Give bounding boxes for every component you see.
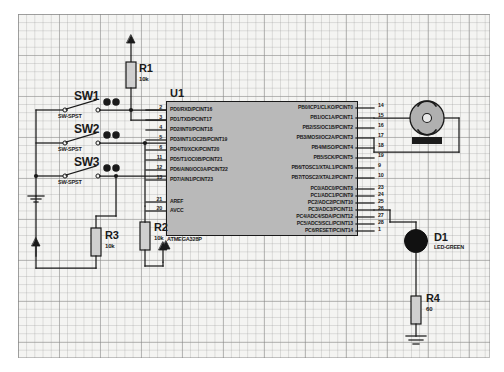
resistor-r4-value: 60 [426,306,432,312]
switch-sw1-value: SW-SPST [58,114,82,120]
resistor-r3-value: 10k [105,243,114,249]
ic-pb-num-17: 17 [378,133,384,138]
resistor-r2-value: 10k [154,235,163,241]
resistor-r1-body [126,62,136,88]
buzzer-symbol [410,101,444,135]
ic-pc-num-26: 26 [378,206,384,211]
junction-dot [34,174,38,178]
resistor-r3-reference: R3 [105,230,119,241]
switch-sw2-value: SW-SPST [58,147,82,153]
led-d1-symbol [405,230,428,253]
ic-pc-name-23: PC0/ADC0/PCINT8 [173,186,353,191]
ic-pin-num-13: 13 [146,175,162,180]
ic-pc-num-23: 23 [378,185,384,190]
switch-sw3-value: SW-SPST [58,180,82,186]
ic-pwr-num-20: 20 [146,206,162,211]
ic-pc-name-1: PC6/RESET/PCINT14 [173,228,353,233]
ic-pb-name-14: PB0/ICP1/CLKO/PCINT0 [173,105,353,110]
ic-pb-num-16: 16 [378,123,384,128]
led-d1-value: LED-GREEN [434,245,464,250]
resistor-r1-reference: R1 [139,63,153,74]
power-terminal-r1 [127,35,135,62]
ic-pin-num-12: 12 [146,165,162,170]
ic-pc-num-24: 24 [378,192,384,197]
ic-pc-name-26: PC3/ADC3/PCINT11 [173,207,353,212]
ic-pin-num-6: 6 [146,145,162,150]
ic-pin-num-5: 5 [146,135,162,140]
ic-pb-name-18: PB4/MISO/PCINT4 [173,145,353,150]
schematic-canvas: R1 10k R2 10k R3 10k R4 60 SW1 SW-SPST S… [0,0,504,372]
ic-pb-num-14: 14 [378,103,384,108]
ic-pin-num-3: 3 [146,115,162,120]
switch-sw1-reference: SW1 [74,90,99,102]
ic-pc-num-27: 27 [378,213,384,218]
ground-terminal-r4 [406,336,426,344]
ic-pb-num-18: 18 [378,143,384,148]
ic-pc-num-28: 28 [378,220,384,225]
ic-pc-num-1: 1 [378,227,381,232]
resistor-r1-value: 10k [139,76,148,82]
ic-pb-name-19: PB5/SCK/PCINT5 [173,155,353,160]
junction-dot [129,108,133,112]
resistor-r3-body [91,228,101,256]
switch-sw2-reference: SW2 [74,123,99,135]
ic-pc-name-27: PC4/ADC4/SDA/PCINT12 [173,214,353,219]
ic-pc-name-28: PC5/ADC5/SCL/PCINT13 [173,221,353,226]
ic-pb-name-17: PB3/MOSI/OC2A/PCINT3 [173,135,353,140]
ic-pb-num-19: 19 [378,153,384,158]
ic-pb-num-15: 15 [378,113,384,118]
ic-pin-num-4: 4 [146,125,162,130]
ic-pc-name-24: PC1/ADC1/PCINT9 [173,193,353,198]
switch-sw3-reference: SW3 [74,156,99,168]
resistor-r4-reference: R4 [426,293,440,304]
led-d1-reference: D1 [434,232,448,243]
ic-pc-num-25: 25 [378,199,384,204]
ic-pc-name-25: PC2/ADC2/PCINT10 [173,200,353,205]
resistor-r4-body [411,296,421,324]
ic-pb-name-15: PB1/OC1A/PCINT1 [173,115,353,120]
ic-pb-name-10: PB7/TOSC2/XTAL2/PCINT7 [173,175,353,180]
power-terminal-r3 [32,238,40,256]
resistor-r2-body [140,222,150,250]
ic-pb-num-10: 10 [378,173,384,178]
ic-part-value: ATMEGA328P [167,237,202,243]
resistor-r2-reference: R2 [154,222,168,233]
ic-pin-num-11: 11 [146,155,162,160]
ic-pb-name-9: PB6/TOSC1/XTAL1/PCINT6 [173,165,353,170]
buzzer-label-plate [412,137,442,144]
ic-pb-name-16: PB2/SS/OC1B/PCINT2 [173,125,353,130]
ic-pin-num-2: 2 [146,105,162,110]
ic-pwr-num-21: 21 [146,197,162,202]
ic-reference: U1 [170,88,184,99]
ic-pb-num-9: 9 [378,163,381,168]
